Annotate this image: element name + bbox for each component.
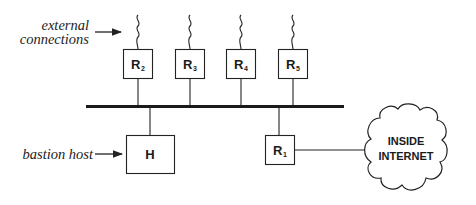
svg-text:2: 2 xyxy=(141,65,145,72)
external-connections-label-line2: connections xyxy=(20,31,90,47)
cloud-label-line2: INTERNET xyxy=(379,150,434,162)
inside-internet-cloud: INSIDE INTERNET xyxy=(365,104,447,190)
svg-text:R: R xyxy=(234,57,244,72)
svg-text:R: R xyxy=(131,57,141,72)
router-r2: R 2 xyxy=(124,50,153,79)
svg-text:5: 5 xyxy=(296,65,300,72)
svg-text:R: R xyxy=(183,57,193,72)
bastion-host-label: bastion host xyxy=(23,146,94,162)
cloud-label-line1: INSIDE xyxy=(388,135,425,147)
wavy-connection-r2 xyxy=(137,15,139,49)
external-connection-lines xyxy=(137,15,294,49)
router-stems xyxy=(138,79,293,107)
svg-text:4: 4 xyxy=(244,65,248,72)
svg-text:R: R xyxy=(286,57,296,72)
svg-text:3: 3 xyxy=(193,65,197,72)
diagram-svg: external connections R 2 R 3 R 4 R 5 xyxy=(0,0,476,205)
wavy-connection-r4 xyxy=(240,15,242,49)
svg-text:R: R xyxy=(273,143,283,158)
network-diagram: external connections R 2 R 3 R 4 R 5 xyxy=(0,0,476,205)
wavy-connection-r3 xyxy=(189,15,191,49)
router-r3: R 3 xyxy=(176,50,205,79)
router-r1: R 1 xyxy=(266,136,295,165)
bastion-host-box: H xyxy=(127,136,175,174)
host-label: H xyxy=(145,147,154,162)
router-r5: R 5 xyxy=(279,50,308,79)
router-r4: R 4 xyxy=(227,50,256,79)
svg-text:1: 1 xyxy=(283,151,287,158)
wavy-connection-r5 xyxy=(292,15,294,49)
